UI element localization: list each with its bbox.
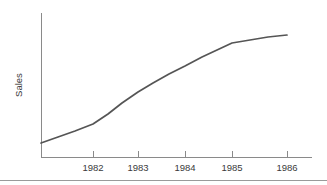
chart-canvas: 1982 1983 1984 1985 1986 Sales xyxy=(0,0,327,185)
x-axis-ticks xyxy=(94,151,288,157)
x-tick-label-1985: 1985 xyxy=(221,162,242,173)
x-axis-tick-labels: 1982 1983 1984 1985 1986 xyxy=(82,162,297,173)
x-tick-label-1983: 1983 xyxy=(127,162,148,173)
y-axis-title: Sales xyxy=(13,73,24,97)
x-tick-label-1986: 1986 xyxy=(276,162,297,173)
sales-series-line xyxy=(41,35,287,143)
x-tick-label-1984: 1984 xyxy=(174,162,195,173)
x-tick-label-1982: 1982 xyxy=(82,162,103,173)
sales-line-chart-figure: 1982 1983 1984 1985 1986 Sales xyxy=(0,0,327,185)
bottom-divider-rule xyxy=(0,180,327,181)
